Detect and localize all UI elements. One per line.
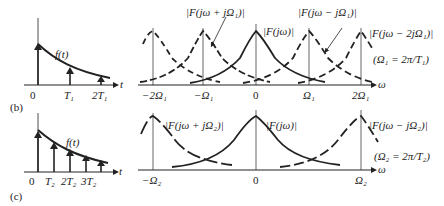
tick-2T2: 2T₂ [61, 175, 77, 187]
sampling-spectrum-diagram: f(t) t 0 T₁ 2T₁ (b) |F(jω + jΩ₁)| |F(jω)… [0, 0, 444, 206]
label-F-minus-Omega1: |F(jω − jΩ₁)| [298, 6, 357, 19]
panel-label-b: (b) [10, 101, 23, 114]
tick-0: 0 [29, 175, 35, 187]
panel-b-time-plot [24, 18, 116, 85]
omega-axis-label: ω [378, 78, 386, 90]
t-axis-label: t [119, 165, 123, 177]
pointer-arrow [212, 17, 226, 45]
tick-minus-Omega1: −Ω₁ [194, 89, 213, 101]
tick-T2: T₂ [45, 175, 55, 187]
tick-T1: T₁ [64, 89, 74, 101]
tick-minus-Omega2: −Ω₂ [142, 174, 161, 186]
tick-Omega1: Ω₁ [303, 89, 315, 101]
decay-curve [38, 44, 110, 78]
pointer-arrow [326, 28, 342, 51]
tick-2T1: 2T₁ [92, 89, 108, 101]
label-F-minus-Omega2: |F(jω − jΩ₂)| [369, 119, 428, 132]
tick-zero: 0 [253, 89, 259, 101]
panel-b-spectrum [138, 17, 374, 85]
label-F-plus-Omega1: |F(jω + jΩ₁)| [186, 6, 245, 19]
tick-3T2: 3T₂ [80, 175, 97, 187]
arrow-head-icon [66, 67, 74, 74]
tick-Omega2: Ω₂ [355, 174, 367, 186]
tick-minus-2Omega1: −2Ω₁ [142, 89, 167, 101]
omega1-definition: (Ω₁ = 2π/T₁) [373, 53, 429, 66]
tick-2Omega1: 2Ω₁ [352, 89, 369, 101]
omega2-definition: (Ω₂ = 2π/T₂) [374, 150, 430, 163]
label-F-plus-Omega2: |F(jω + jΩ₂)| [165, 119, 224, 132]
omega-axis-label: ω [378, 163, 386, 175]
t-axis-label: t [120, 78, 124, 90]
label-F-center: |F(jω)| [266, 119, 297, 132]
label-F-center: |F(jω)| [263, 25, 294, 38]
tick-zero: 0 [253, 174, 259, 186]
tick-0: 0 [30, 89, 36, 101]
curve-label-ft: f(t) [55, 48, 69, 61]
label-F-minus-2Omega1: |F(jω − 2jΩ₁)| [369, 27, 433, 40]
panel-label-c: (c) [10, 190, 23, 203]
curve-label-ft: f(t) [66, 136, 80, 149]
